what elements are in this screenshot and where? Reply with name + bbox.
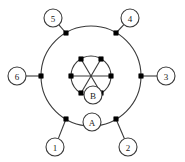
terminal-text-5: 5 [51, 14, 56, 24]
region-text-A: A [89, 118, 96, 128]
outer-node-5 [64, 31, 68, 35]
outer-node-6 [39, 74, 43, 78]
terminal-text-4: 4 [128, 14, 133, 24]
outer-node-3 [139, 74, 143, 78]
diagram-canvas: 123456 AB [0, 0, 185, 162]
inner-node-4 [99, 57, 103, 61]
inner-node-3 [109, 74, 113, 78]
spoke-line-1 [58, 119, 66, 139]
inner-node-5 [79, 57, 83, 61]
terminal-text-2: 2 [126, 143, 131, 153]
outer-node-4 [114, 31, 118, 35]
terminal-text-3: 3 [164, 72, 169, 82]
region-text-B: B [90, 91, 96, 101]
spoke-line-2 [116, 119, 124, 139]
network-diagram: 123456 AB [0, 0, 185, 162]
inner-node-1 [79, 91, 83, 95]
terminal-label-group: 123456 [8, 9, 175, 156]
terminal-text-6: 6 [15, 72, 20, 82]
inner-node-6 [69, 74, 73, 78]
outer-node-2 [114, 117, 118, 121]
outer-node-1 [64, 117, 68, 121]
terminal-text-1: 1 [53, 143, 58, 153]
region-label-group: AB [83, 86, 102, 131]
